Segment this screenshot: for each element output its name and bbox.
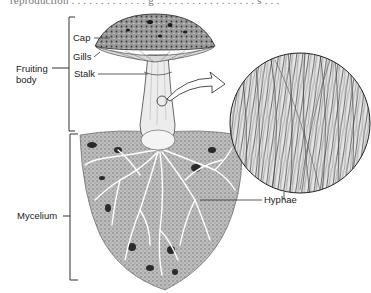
- mycelium-bracket: [63, 134, 78, 280]
- label-gills: Gills: [73, 51, 91, 62]
- mycelium-mass: [80, 131, 242, 290]
- label-mycelium: Mycelium: [17, 210, 57, 221]
- label-cap: Cap: [73, 32, 90, 43]
- stalk: [140, 55, 175, 150]
- label-fruiting-body-line1: Fruiting: [16, 63, 48, 74]
- label-fruiting-body-line2: body: [16, 74, 48, 85]
- gills-leader: [94, 52, 100, 57]
- magnify-arrow: [167, 72, 225, 101]
- fruiting-body-bracket: [52, 17, 75, 131]
- label-stalk: Stalk: [74, 68, 95, 79]
- mushroom-illustration: [0, 0, 371, 293]
- label-fruiting-body: Fruiting body: [16, 63, 48, 85]
- magnified-hyphae-circle: [230, 50, 370, 196]
- label-hyphae: Hyphae: [264, 194, 297, 205]
